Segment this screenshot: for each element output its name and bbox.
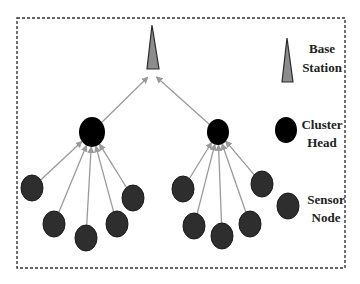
legend-base-station-label-line2: Station	[302, 60, 343, 75]
base-station-icon	[147, 25, 159, 69]
legend-sensor-node: Sensor Node	[277, 192, 345, 225]
sensor-node	[75, 225, 97, 251]
link-arrow	[41, 141, 82, 180]
legend-base-station-icon	[282, 38, 293, 82]
cluster-head-node	[79, 117, 105, 147]
legend-cluster-head: Cluster Head	[275, 117, 343, 150]
sensor-node	[21, 175, 43, 201]
sensor-node	[183, 213, 205, 239]
link-arrow	[189, 143, 211, 179]
link-arrow	[102, 77, 148, 122]
link-arrow	[87, 147, 91, 225]
cluster-head-node	[207, 119, 229, 145]
cluster-network-diagram: Base Station Cluster Head Sensor Node	[0, 0, 360, 284]
legend-base-station-label-line1: Base	[309, 41, 335, 56]
legend-sensor-node-label-line1: Sensor	[307, 192, 345, 207]
legend-sensor-node-icon	[277, 193, 299, 219]
legend: Base Station Cluster Head Sensor Node	[275, 38, 345, 225]
sensor-node	[172, 176, 194, 202]
sensor-node	[211, 223, 233, 249]
legend-cluster-head-label-line1: Cluster	[301, 117, 342, 132]
link-arrow	[218, 145, 221, 223]
sensor-node	[122, 185, 144, 211]
sensor-node	[251, 171, 273, 197]
legend-base-station: Base Station	[282, 38, 343, 82]
diagram-frame	[17, 18, 345, 268]
legend-cluster-head-label-line2: Head	[307, 135, 337, 150]
sensor-node	[239, 211, 261, 237]
sensor-node	[106, 211, 128, 237]
link-arrow	[226, 141, 254, 175]
legend-sensor-node-label-line2: Node	[312, 210, 341, 225]
link-arrow	[197, 144, 215, 213]
legend-cluster-head-icon	[275, 117, 297, 143]
links-group	[41, 77, 255, 225]
link-arrow	[222, 144, 246, 212]
link-arrow	[59, 146, 87, 213]
link-arrow	[96, 146, 114, 211]
sensor-node	[43, 211, 65, 237]
link-arrow	[100, 144, 127, 187]
link-arrow	[156, 77, 209, 124]
